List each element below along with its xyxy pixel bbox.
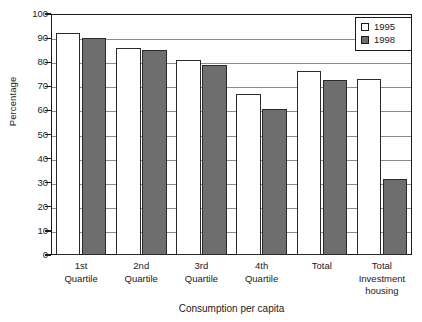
y-tick-label-90: 90 [18,33,48,43]
x-axis-title: Consumption per capita [51,303,412,314]
y-tick-label-70: 70 [18,81,48,91]
x-tick-label-5-line-0: Total [337,260,422,273]
y-tick-mark-60 [45,110,51,111]
gridline-80 [52,63,411,64]
y-tick-mark-10 [45,230,51,231]
y-tick-label-20: 20 [18,202,48,212]
gray-square-icon [361,36,369,44]
y-axis-title: Percentage [7,54,18,150]
y-tick-label-80: 80 [18,57,48,67]
y-tick-label-100: 100 [18,9,48,19]
y-tick-mark-100 [45,13,51,14]
y-tick-label-0: 0 [18,250,48,260]
y-tick-mark-90 [45,38,51,39]
y-tick-mark-70 [45,86,51,87]
gridline-10 [52,232,411,233]
x-tick-label-5-line-2: housing [337,285,422,298]
y-tick-mark-50 [45,134,51,135]
y-tick-mark-20 [45,206,51,207]
y-tick-mark-30 [45,182,51,183]
x-tick-label-3-line-1: Quartile [217,273,307,286]
y-tick-mark-0 [45,254,51,255]
legend[interactable]: 1995 1998 [355,17,412,51]
gridline-50 [52,136,411,137]
x-tick-label-5: TotalInvestmenthousing [337,260,422,298]
y-tick-label-60: 60 [18,105,48,115]
y-tick-mark-80 [45,62,51,63]
y-tick-label-10: 10 [18,226,48,236]
gridline-40 [52,160,411,161]
gridline-20 [52,208,411,209]
y-tick-label-30: 30 [18,178,48,188]
gridline-30 [52,184,411,185]
gridline-60 [52,111,411,112]
y-tick-label-40: 40 [18,154,48,164]
y-tick-mark-40 [45,158,51,159]
legend-label-1995: 1995 [374,22,395,32]
bar-chart-figure: Percentage 0102030405060708090100 1995 1… [0,0,422,322]
white-square-icon [361,23,369,31]
gridline-70 [52,87,411,88]
legend-label-1998: 1998 [374,35,395,45]
legend-item-1995[interactable]: 1995 [361,21,407,33]
legend-item-1998[interactable]: 1998 [361,34,407,46]
y-tick-label-50: 50 [18,130,48,140]
x-tick-label-5-line-1: Investment [337,273,422,286]
